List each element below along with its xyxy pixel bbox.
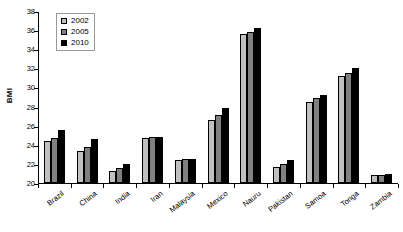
x-tick-mark (103, 184, 104, 188)
x-tick-mark (267, 184, 268, 188)
bar-group (305, 95, 327, 183)
bar-group (240, 28, 262, 183)
bar (313, 98, 320, 183)
x-axis-label: Mexico (205, 189, 229, 211)
bar (91, 139, 98, 183)
y-tick-label: 38 (27, 7, 35, 16)
bar (44, 141, 51, 183)
y-tick-label: 22 (27, 160, 35, 169)
legend-item: 2005 (61, 28, 89, 36)
x-tick-mark (365, 184, 366, 188)
bar (345, 73, 352, 183)
bar (175, 160, 182, 183)
x-axis-label: Pakistan (267, 189, 295, 214)
bar (215, 115, 222, 183)
x-axis-label: Nauru (241, 189, 263, 209)
y-tick-label: 26 (27, 122, 35, 131)
bar (378, 175, 385, 183)
chart-legend: 200220052010 (56, 13, 95, 51)
legend-item: 2002 (61, 17, 89, 25)
bar (273, 167, 280, 183)
bar (142, 138, 149, 183)
x-tick-mark (398, 184, 399, 188)
bar (222, 108, 229, 183)
legend-item: 2010 (61, 39, 89, 47)
bar-group (207, 108, 229, 183)
bar-group (43, 130, 65, 183)
bar (51, 138, 58, 183)
y-tick-label: 36 (27, 26, 35, 35)
x-tick-mark (71, 184, 72, 188)
bar (338, 76, 345, 183)
y-tick-label: 30 (27, 83, 35, 92)
bar (156, 137, 163, 183)
bar-group (109, 164, 131, 183)
legend-swatch (61, 29, 67, 35)
bar (208, 120, 215, 183)
x-tick-mark (136, 184, 137, 188)
y-tick-label: 32 (27, 64, 35, 73)
x-axis-label: Tonga (339, 189, 361, 209)
y-axis-line (38, 12, 39, 184)
bar-group (272, 160, 294, 183)
bar (352, 68, 359, 183)
x-tick-mark (169, 184, 170, 188)
x-axis-label: Zambia (368, 189, 393, 211)
y-axis-title-text: BMI (5, 87, 14, 102)
legend-label: 2010 (71, 39, 89, 47)
bar (109, 171, 116, 183)
legend-label: 2005 (71, 28, 89, 36)
bar-group (338, 68, 360, 183)
x-axis-line (38, 183, 398, 184)
bar (254, 28, 261, 183)
bar (123, 164, 130, 183)
y-tick-label: 28 (27, 103, 35, 112)
bar-group (76, 139, 98, 183)
bar (149, 137, 156, 183)
bar (240, 34, 247, 183)
bar-group (174, 159, 196, 183)
y-tick-label: 24 (27, 141, 35, 150)
x-tick-mark (202, 184, 203, 188)
x-axis-label: Samoa (303, 189, 327, 211)
bmi-bar-chart: BMI 20222426283032343638 BrazilChinaIndi… (0, 0, 403, 232)
x-axis-label: Malaysia (168, 189, 197, 214)
bar (189, 159, 196, 183)
bar-group (142, 137, 164, 183)
y-tick-label: 20 (27, 179, 35, 188)
bar (306, 102, 313, 183)
bar (287, 160, 294, 183)
bar (182, 159, 189, 183)
y-tick-label: 34 (27, 45, 35, 54)
y-axis-title: BMI (2, 0, 18, 190)
bar (116, 168, 123, 183)
bar (385, 174, 392, 183)
x-axis-label: Iran (148, 189, 164, 204)
x-tick-mark (300, 184, 301, 188)
bar (280, 164, 287, 183)
bar (84, 147, 91, 183)
x-tick-mark (333, 184, 334, 188)
x-axis-label: China (78, 189, 99, 208)
x-axis-label: Brazil (46, 189, 66, 208)
x-tick-mark (234, 184, 235, 188)
bar (371, 175, 378, 183)
bar-group (371, 174, 393, 183)
legend-swatch (61, 40, 67, 46)
x-tick-mark (38, 184, 39, 188)
legend-swatch (61, 18, 67, 24)
bar (58, 130, 65, 183)
bar (247, 32, 254, 183)
legend-label: 2002 (71, 17, 89, 25)
bar (77, 151, 84, 183)
bar (320, 95, 327, 183)
x-axis-label: India (113, 189, 131, 206)
